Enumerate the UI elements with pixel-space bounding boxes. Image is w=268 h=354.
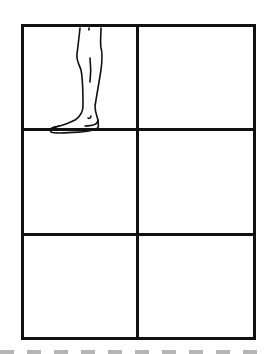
- panel-2-2: [138, 130, 256, 235]
- panel-3-1: [21, 235, 138, 340]
- panel-1-2: [138, 24, 256, 130]
- panel-2-1: [21, 130, 138, 235]
- panel-1-1: [21, 24, 138, 130]
- storyboard-grid: [21, 24, 256, 340]
- panel-3-2: [138, 235, 256, 340]
- dashed-separator: [0, 350, 268, 354]
